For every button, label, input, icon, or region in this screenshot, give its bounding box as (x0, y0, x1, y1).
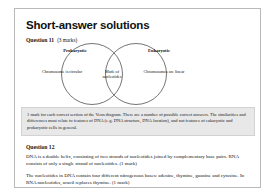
venn-right-content: Chromosomes are linear (138, 69, 190, 74)
venn-label-prokaryotic: Prokaryotic (47, 48, 103, 53)
page-title: Short-answer solutions (26, 19, 149, 31)
question-12-answer-paragraph-1: DNA is a double helix, consisting of two… (26, 153, 252, 167)
venn-diagram: Prokaryotic Eukaryotic Chromosome is cir… (26, 43, 251, 105)
venn-overlap-content: Made of nucleotides (96, 69, 128, 79)
question-12-heading: Question 12 (26, 144, 54, 150)
marking-guide-text: 1 mark for each correct section of the V… (27, 112, 249, 131)
marking-guide-box: 1 mark for each correct section of the V… (21, 107, 255, 136)
solutions-page: Short-answer solutions Question 11(3 mar… (14, 8, 261, 188)
question-12-answer-paragraph-2: The nucleotides in DNA contain four diff… (26, 172, 252, 186)
venn-label-eukaryotic: Eukaryotic (131, 48, 187, 53)
question-12-label: Question 12 (26, 144, 54, 150)
venn-left-content: Chromosome is circular (38, 69, 86, 74)
